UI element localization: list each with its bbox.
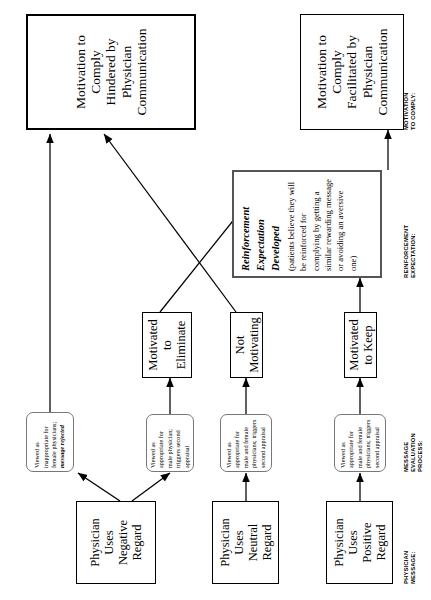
outcome-line-3: Communication bbox=[375, 29, 390, 116]
node-motivated-to-keep[interactable]: Motivated to Keep bbox=[344, 312, 377, 378]
eval-text-emphasis: message rejected bbox=[58, 425, 65, 468]
node-eval-negative-female[interactable]: Viewed as inappropriate for female physi… bbox=[26, 412, 74, 472]
node-line-1: Physician Uses bbox=[218, 506, 246, 579]
node-physician-uses-negative-regard[interactable]: Physician Uses Negative Regard bbox=[76, 501, 156, 584]
figure-canvas: PHYSICIAN MESSAGE: MESSAGE EVALUATION PR… bbox=[0, 0, 431, 600]
node-eval-neutral[interactable]: Viewed as appropriate for male and femal… bbox=[220, 414, 272, 472]
node-eval-negative-male[interactable]: Viewed as appropriate for male physician… bbox=[146, 414, 194, 472]
node-line-2: Neutral Regard bbox=[246, 506, 274, 579]
outcome-line-1: Motivation to Comply bbox=[314, 20, 344, 124]
outcome-line-2: Facilitated by Physician bbox=[344, 20, 374, 124]
node-not-motivating[interactable]: Not Motivating bbox=[230, 312, 263, 378]
wire-negative-to-eval-male bbox=[132, 473, 170, 501]
node-outcome-hindered[interactable]: Motivation to Comply Hindered by Physici… bbox=[26, 14, 196, 130]
reinforcement-title: Reinforcement Expectation Developed bbox=[238, 177, 284, 271]
node-eval-positive[interactable]: Viewed as appropriate for male and femal… bbox=[334, 414, 386, 472]
eval-text: Viewed as appropriate for male and femal… bbox=[225, 418, 267, 468]
row-label-message-evaluation: MESSAGE EVALUATION PROCESS: bbox=[403, 433, 425, 472]
reinforcement-body: (patients believe they will be reinforce… bbox=[285, 177, 360, 271]
row-label-motivation-to-comply: MOTIVATION TO COMPLY: bbox=[403, 92, 417, 130]
outcome-line-2: Hindered by Physician bbox=[103, 21, 133, 123]
outcome-line-1: Motivation to Comply bbox=[73, 21, 103, 123]
eval-text: Viewed as appropriate for male physician… bbox=[149, 418, 191, 468]
node-line-2: Positive Regard bbox=[360, 506, 388, 579]
row-label-reinforcement-expectation: REINFORCEMENT EXPECTATION: bbox=[403, 225, 417, 278]
node-motivated-to-eliminate[interactable]: Motivated to Eliminate bbox=[142, 312, 192, 378]
row-label-physician-message: PHYSICIAN MESSAGE: bbox=[403, 551, 417, 584]
eval-text: Viewed as appropriate for male and femal… bbox=[339, 418, 381, 468]
wire-negative-to-eval-female bbox=[78, 473, 120, 501]
node-reinforcement-expectation[interactable]: Reinforcement Expectation Developed (pat… bbox=[232, 170, 382, 278]
node-physician-uses-neutral-regard[interactable]: Physician Uses Neutral Regard bbox=[212, 501, 279, 584]
eval-text-plain: Viewed as inappropriate for female physi… bbox=[33, 422, 57, 468]
node-line-1: Physician Uses bbox=[332, 506, 360, 579]
node-outcome-facilitated[interactable]: Motivation to Comply Facilitated by Phys… bbox=[300, 14, 404, 130]
node-physician-uses-positive-regard[interactable]: Physician Uses Positive Regard bbox=[326, 501, 393, 584]
node-line-1: Physician Uses bbox=[88, 506, 116, 579]
flowchart-stage: PHYSICIAN MESSAGE: MESSAGE EVALUATION PR… bbox=[0, 0, 431, 600]
node-line-2: Negative Regard bbox=[116, 506, 144, 579]
wire-not-motivating-to-hindered bbox=[104, 134, 236, 312]
eval-text: Viewed as inappropriate for female physi… bbox=[33, 416, 66, 468]
outcome-line-3: Communication bbox=[134, 29, 149, 116]
